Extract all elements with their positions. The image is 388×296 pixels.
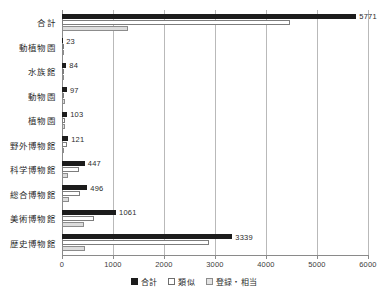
bar-total [62,14,356,19]
legend-item-similar: 類似 [168,276,195,287]
bar-total [62,38,63,43]
x-axis-tick-label: 2000 [155,260,173,269]
legend-label-similar: 類似 [178,276,195,287]
x-axis-tick [317,255,318,259]
bar-registered [62,124,65,129]
y-axis-category-label: 植物園 [28,114,56,126]
bar-registered [62,148,64,153]
bar-registered [62,222,84,227]
x-axis-tick-label: 6000 [359,260,377,269]
bar-total [62,87,67,92]
bar-total [62,63,66,68]
x-axis-tick [164,255,165,259]
bar-similar [62,93,64,98]
bar-registered [62,99,65,104]
bar-value-label: 84 [69,61,78,70]
x-axis-tick [113,255,114,259]
x-axis-tick [266,255,267,259]
y-axis-category-label: 科学博物館 [10,163,57,175]
bar-similar [62,167,79,172]
bar-similar [62,44,64,49]
bar-total [62,185,87,190]
x-axis-tick-label: 4000 [257,260,275,269]
bar-registered [62,75,64,80]
y-axis-category-label: 動植物園 [19,41,56,53]
bar-total [62,161,85,166]
legend-swatch-registered-icon [206,278,213,285]
y-axis-category-label: 歴史博物館 [10,237,57,249]
legend-label-registered: 登録・相当 [216,276,258,287]
y-axis-category-label: 合計 [37,16,56,28]
bar-similar [62,69,64,74]
bar-registered [62,50,64,55]
y-axis-category-label: 美術博物館 [10,212,57,224]
legend-swatch-total-icon [131,278,138,285]
bar-total [62,234,232,239]
bar-registered [62,173,68,178]
gridline [368,10,369,255]
bar-total [62,136,68,141]
gridline [317,10,318,255]
bar-value-label: 97 [70,85,79,94]
bar-total [62,112,67,117]
bar-total [62,210,116,215]
bar-value-label: 121 [71,134,84,143]
bar-registered [62,26,128,31]
gridline [266,10,267,255]
gridline [113,10,114,255]
legend-swatch-similar-icon [168,278,175,285]
chart-legend: 合計 類似 登録・相当 [0,276,388,287]
bar-similar [62,118,65,123]
x-axis-tick-label: 1000 [104,260,122,269]
x-axis-tick [215,255,216,259]
horizontal-bar-chart: 0100020003000400050006000 合計動植物園水族館動物園植物… [0,0,388,296]
bar-value-label: 447 [88,159,101,168]
bar-similar [62,20,290,25]
y-axis-category-label: 水族館 [28,65,56,77]
legend-item-total: 合計 [131,276,158,287]
bar-value-label: 23 [66,36,75,45]
legend-label-total: 合計 [141,276,158,287]
bar-similar [62,142,67,147]
gridline [215,10,216,255]
y-axis-category-label: 総合博物館 [10,188,57,200]
bar-registered [62,197,69,202]
gridline [164,10,165,255]
bar-similar [62,191,80,196]
bar-similar [62,216,94,221]
bar-value-label: 496 [90,183,103,192]
bar-registered [62,246,85,251]
bar-value-label: 3339 [235,232,253,241]
x-axis-tick [62,255,63,259]
x-axis-tick [368,255,369,259]
legend-item-registered: 登録・相当 [206,276,258,287]
x-axis-tick-label: 5000 [308,260,326,269]
x-axis-tick-label: 3000 [206,260,224,269]
bar-value-label: 103 [70,110,83,119]
x-axis-tick-label: 0 [60,260,64,269]
y-axis-category-label: 動物園 [28,90,56,102]
bar-value-label: 1061 [119,208,137,217]
bar-value-label: 5771 [359,12,377,21]
y-axis-category-label: 野外博物館 [10,139,57,151]
bar-similar [62,240,209,245]
